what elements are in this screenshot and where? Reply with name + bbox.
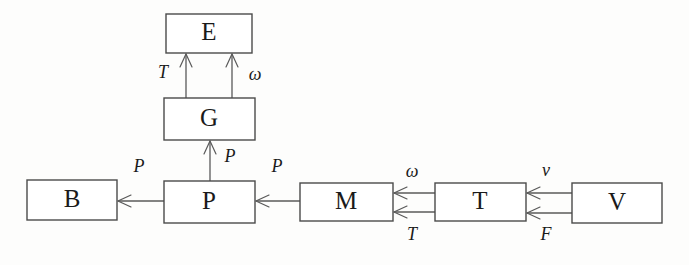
node-label: T: [472, 187, 487, 214]
node-T[interactable]: T: [435, 183, 526, 221]
diagram-canvas: EGBPMTV TωPPPωTvF: [0, 0, 689, 265]
node-label: P: [202, 187, 216, 214]
node-label: G: [200, 104, 218, 131]
nodes-layer: EGBPMTV: [27, 14, 662, 223]
block-diagram: EGBPMTV TωPPPωTvF: [0, 0, 689, 265]
edge-label-G-to-E-left: T: [158, 62, 170, 82]
node-V[interactable]: V: [572, 183, 662, 223]
edge-label-T-to-M-upper: ω: [406, 161, 419, 181]
node-G[interactable]: G: [164, 98, 255, 140]
node-label: E: [201, 18, 216, 45]
node-label: V: [608, 188, 626, 215]
edge-label-M-to-P: P: [271, 156, 283, 176]
edge-V-to-T-lower: [527, 207, 572, 219]
edge-T-to-M-upper: [394, 187, 435, 199]
edge-G-to-E-left: [180, 54, 192, 98]
edge-label-P-to-B: P: [133, 156, 145, 176]
node-label: B: [64, 185, 81, 212]
edge-label-G-to-E-right: ω: [249, 64, 262, 84]
edge-G-to-E-right: [226, 54, 238, 98]
edge-M-to-P: [256, 195, 300, 207]
edge-label-T-to-M-lower: T: [407, 224, 419, 244]
edge-P-to-G: [204, 141, 216, 181]
node-P[interactable]: P: [164, 181, 255, 223]
node-B[interactable]: B: [27, 180, 117, 220]
node-M[interactable]: M: [300, 183, 393, 221]
node-E[interactable]: E: [166, 14, 252, 53]
edge-P-to-B: [118, 195, 164, 207]
node-label: M: [335, 187, 357, 214]
edge-label-P-to-G: P: [224, 146, 236, 166]
edge-label-V-to-T-upper: v: [542, 160, 550, 180]
edge-V-to-T-upper: [527, 187, 572, 199]
edge-T-to-M-lower: [394, 206, 435, 218]
edge-label-V-to-T-lower: F: [540, 224, 553, 244]
